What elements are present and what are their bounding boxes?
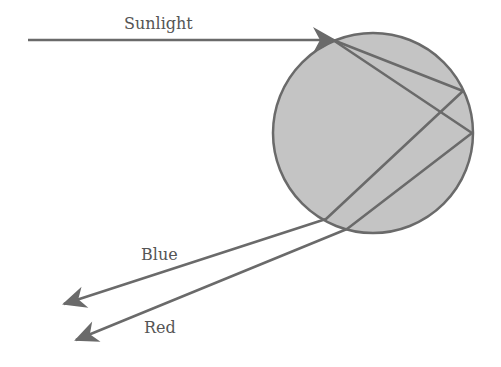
raindrop-dispersion-diagram: Sunlight Blue Red	[0, 0, 501, 367]
blue-label: Blue	[141, 245, 178, 264]
diagram-canvas	[0, 0, 501, 367]
raindrop-circle	[273, 33, 473, 233]
red-label: Red	[144, 318, 176, 337]
sunlight-label: Sunlight	[124, 14, 193, 33]
